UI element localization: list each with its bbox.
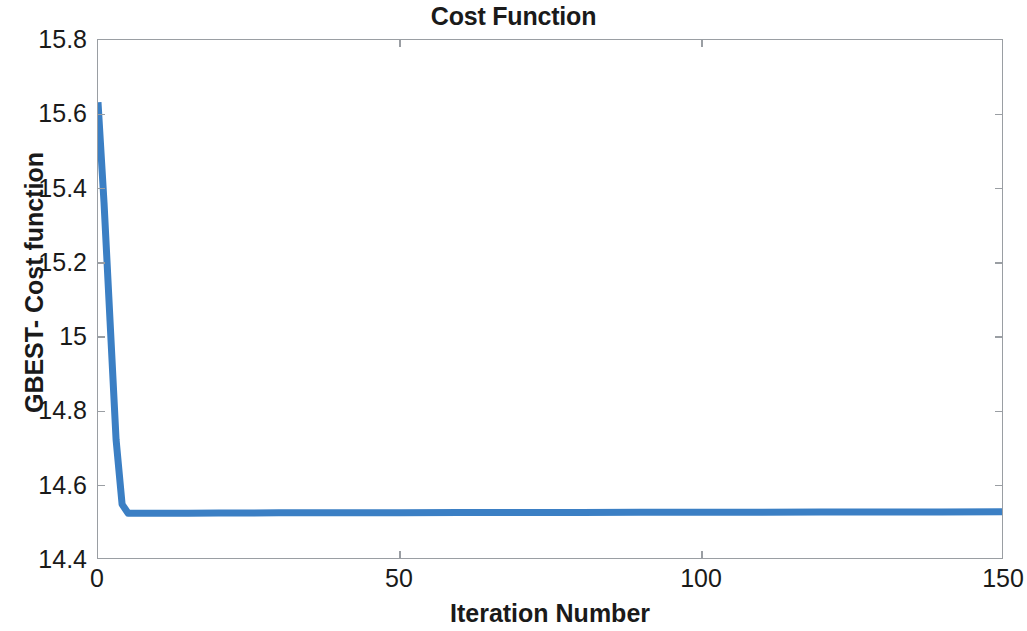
- x-tick-label: 0: [90, 566, 104, 591]
- x-tick-mark: [399, 551, 401, 558]
- chart-title: Cost Function: [0, 2, 1027, 31]
- y-tick-mark: [98, 262, 105, 264]
- x-tick-mark: [399, 40, 401, 47]
- y-tick-label: 15.2: [38, 249, 87, 274]
- x-tick-label: 100: [680, 566, 722, 591]
- y-tick-mark: [995, 485, 1002, 487]
- y-tick-mark: [98, 188, 105, 190]
- y-tick-mark: [98, 336, 105, 338]
- y-tick-mark: [995, 114, 1002, 116]
- x-tick-mark: [701, 551, 703, 558]
- y-tick-label: 15: [59, 324, 87, 349]
- y-tick-mark: [98, 485, 105, 487]
- x-axis-tick-labels: 050100150: [97, 566, 1003, 598]
- y-tick-label: 14.8: [38, 398, 87, 423]
- y-tick-mark: [995, 262, 1002, 264]
- x-tick-label: 150: [982, 566, 1024, 591]
- y-tick-label: 14.6: [38, 472, 87, 497]
- y-tick-label: 14.4: [38, 547, 87, 572]
- series-line-gbest-cost: [98, 102, 1002, 513]
- y-tick-mark: [995, 336, 1002, 338]
- series-line-chart: [98, 40, 1002, 558]
- plot-area: [97, 39, 1003, 559]
- x-axis-title: Iteration Number: [97, 599, 1003, 628]
- y-tick-label: 15.4: [38, 175, 87, 200]
- y-tick-label: 15.6: [38, 101, 87, 126]
- x-tick-label: 50: [385, 566, 413, 591]
- y-tick-mark: [98, 114, 105, 116]
- y-tick-mark: [995, 411, 1002, 413]
- plot-inner: [98, 40, 1002, 558]
- y-tick-mark: [98, 411, 105, 413]
- y-axis-tick-labels: 14.414.614.81515.215.415.615.8: [0, 39, 87, 559]
- x-tick-mark: [701, 40, 703, 47]
- y-tick-label: 15.8: [38, 27, 87, 52]
- chart-figure: Cost Function GBEST- Cost function 14.41…: [0, 0, 1027, 631]
- y-tick-mark: [995, 188, 1002, 190]
